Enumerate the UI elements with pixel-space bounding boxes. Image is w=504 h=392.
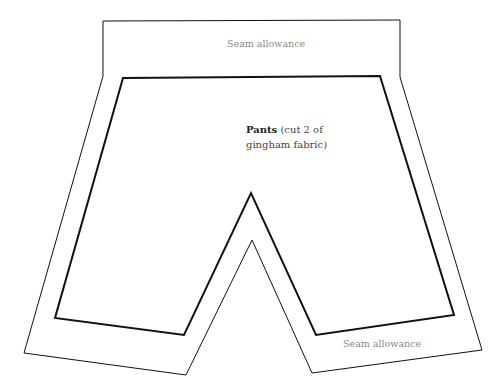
pants-piece-outline bbox=[55, 76, 454, 335]
piece-title: Pants (cut 2 of gingham fabric) bbox=[246, 122, 327, 152]
piece-note-line1: (cut 2 of bbox=[280, 124, 322, 135]
piece-name: Pants bbox=[246, 124, 277, 135]
seam-allowance-bottom-label: Seam allowance bbox=[343, 338, 421, 349]
piece-note-line2: gingham fabric) bbox=[246, 137, 327, 152]
pattern-drawing bbox=[0, 0, 504, 392]
seam-allowance-top-label: Seam allowance bbox=[227, 38, 305, 49]
